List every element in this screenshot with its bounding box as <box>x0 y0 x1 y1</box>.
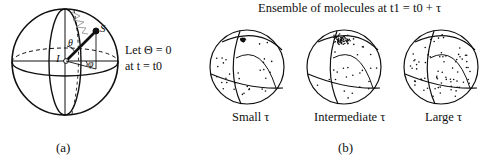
origin-label: I <box>56 52 60 64</box>
caption-a: (a) <box>56 140 70 156</box>
sphere-label-large: Large τ <box>425 110 462 125</box>
sphere-label-intermediate: Intermediate τ <box>314 110 385 125</box>
ensemble-title: Ensemble of molecules at t1 = t0 + τ <box>258 1 441 16</box>
sphere-small-tau <box>210 30 284 104</box>
phi-label: φ <box>88 58 94 69</box>
let-theta-note: Let Θ = 0 <box>125 43 171 58</box>
at-time-note: at t = t0 <box>125 59 162 74</box>
caption-b: (b) <box>338 140 353 156</box>
theta-label: θ <box>68 37 73 48</box>
spin-label: S <box>100 22 106 34</box>
sphere-label-small: Small τ <box>232 110 269 125</box>
molecule-dots <box>216 33 471 99</box>
diagram-canvas <box>0 0 480 162</box>
